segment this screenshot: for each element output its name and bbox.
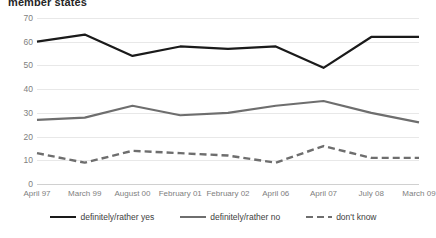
chart-legend: definitely/rather yesdefinitely/rather n…: [0, 212, 427, 222]
x-axis-tick: April 97: [23, 189, 50, 198]
legend-label: don't know: [336, 212, 376, 222]
x-axis-tick-labels: April 97March 99August 00February 01Febr…: [37, 189, 419, 203]
series-line: [37, 35, 419, 68]
series-layer: [37, 18, 419, 184]
legend-item[interactable]: definitely/rather no: [180, 212, 280, 222]
y-axis-tick: 10: [7, 156, 33, 165]
legend-label: definitely/rather yes: [80, 212, 154, 222]
x-axis-tick: February 02: [206, 189, 249, 198]
legend-label: definitely/rather no: [210, 212, 280, 222]
x-axis-tick: July 08: [359, 189, 384, 198]
y-axis-tick-labels: 706050403020100: [0, 18, 33, 184]
y-axis-tick: 0: [7, 180, 33, 189]
series-line: [37, 101, 419, 122]
plot-area: [37, 18, 419, 184]
x-axis-tick: April 06: [262, 189, 289, 198]
page-title: member states: [8, 0, 87, 8]
y-axis-tick: 30: [7, 109, 33, 118]
x-axis-tick: March 09: [402, 189, 435, 198]
y-axis-tick: 50: [7, 61, 33, 70]
legend-swatch-icon: [180, 216, 206, 218]
y-axis-tick: 70: [7, 14, 33, 23]
series-line: [37, 146, 419, 163]
x-axis-tick: April 07: [310, 189, 337, 198]
x-axis-tick: March 99: [68, 189, 101, 198]
gridline: [37, 184, 419, 185]
legend-item[interactable]: don't know: [306, 212, 376, 222]
y-axis-tick: 60: [7, 38, 33, 47]
y-axis-tick: 40: [7, 85, 33, 94]
legend-swatch-icon: [306, 216, 332, 219]
x-axis-tick: February 01: [159, 189, 202, 198]
x-axis-tick: August 00: [114, 189, 150, 198]
legend-swatch-icon: [50, 216, 76, 218]
legend-item[interactable]: definitely/rather yes: [50, 212, 154, 222]
y-axis-tick: 20: [7, 133, 33, 142]
